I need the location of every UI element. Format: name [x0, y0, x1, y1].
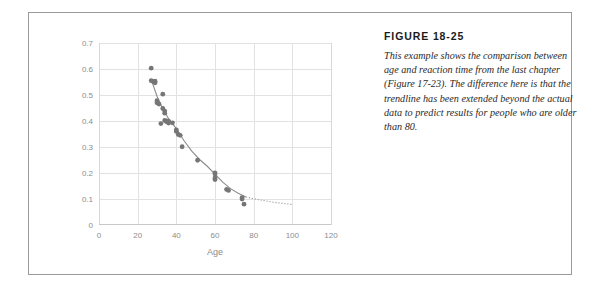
- plot-border-vertical: [331, 43, 332, 225]
- y-axis-tick-label: 0.1: [82, 195, 93, 204]
- x-axis-tick-label: 120: [324, 231, 337, 240]
- figure-caption-text: This example shows the comparison betwee…: [384, 49, 582, 134]
- scatter-plot-svg: [99, 43, 331, 225]
- figure-caption-block: FIGURE 18-25 This example shows the comp…: [384, 30, 582, 134]
- x-axis-tick-label: 40: [172, 231, 181, 240]
- y-axis-tick-label: 0.2: [82, 169, 93, 178]
- x-axis-tick-label: 0: [97, 231, 101, 240]
- chart-area: 00.10.20.30.40.50.60.7 020406080100120 A…: [37, 19, 367, 269]
- data-point: [240, 197, 245, 202]
- y-axis-tick-label: 0.4: [82, 117, 93, 126]
- data-point: [170, 120, 175, 125]
- plot-area: 00.10.20.30.40.50.60.7 020406080100120: [99, 43, 331, 225]
- data-point: [153, 80, 158, 85]
- figure-page: 00.10.20.30.40.50.60.7 020406080100120 A…: [0, 0, 602, 297]
- y-axis-tick-label: 0.5: [82, 91, 93, 100]
- figure-number-title: FIGURE 18-25: [384, 30, 582, 42]
- data-points: [149, 66, 247, 207]
- x-axis-tick-label: 100: [286, 231, 299, 240]
- x-axis-tick-label: 60: [211, 231, 220, 240]
- x-axis-tick-label: 20: [133, 231, 142, 240]
- y-axis-tick-label: 0.7: [82, 39, 93, 48]
- data-point: [226, 188, 231, 193]
- figure-frame: 00.10.20.30.40.50.60.7 020406080100120 A…: [28, 12, 572, 275]
- data-point: [162, 111, 167, 116]
- y-axis-tick-label: 0.6: [82, 65, 93, 74]
- data-point: [149, 66, 154, 71]
- data-point: [178, 133, 183, 138]
- x-axis-label: Age: [99, 247, 331, 257]
- data-point: [157, 102, 162, 107]
- y-axis-tick-label: 0: [89, 221, 93, 230]
- trendline-extended-prediction: [246, 197, 292, 205]
- data-point: [242, 202, 247, 207]
- data-point: [160, 92, 165, 97]
- data-point: [213, 177, 218, 182]
- data-point: [195, 158, 200, 163]
- x-axis-tick-label: 80: [249, 231, 258, 240]
- data-point: [158, 121, 163, 126]
- data-point: [180, 144, 185, 149]
- y-axis-tick-label: 0.3: [82, 143, 93, 152]
- trendline-fitted: [151, 79, 246, 197]
